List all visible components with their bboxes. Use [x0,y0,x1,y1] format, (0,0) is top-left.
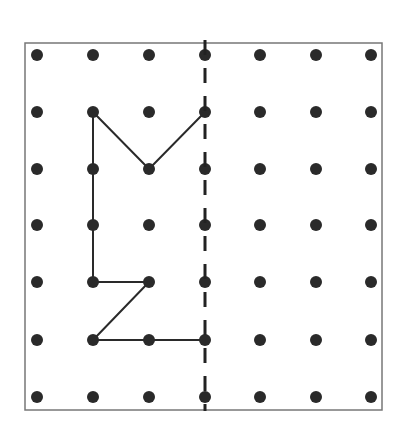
grid-dot [254,219,266,231]
grid-dot [31,163,43,175]
grid-dot [310,219,322,231]
grid-dot [365,163,377,175]
grid-dot [254,276,266,288]
shape-segment [149,112,205,169]
grid-dot [310,334,322,346]
grid-dot [87,49,99,61]
grid-dot [31,276,43,288]
grid-dot [143,219,155,231]
shape-segment [93,282,149,340]
grid-dot [254,391,266,403]
grid-dot [365,334,377,346]
grid-dot [143,391,155,403]
grid-dot [31,334,43,346]
grid-dot [31,106,43,118]
shape-segment [93,112,149,169]
grid-dot [254,334,266,346]
grid-dot [254,106,266,118]
grid-dot [310,163,322,175]
grid-dot [254,49,266,61]
grid-dot [87,391,99,403]
grid-dot [143,106,155,118]
grid-dot [143,49,155,61]
grid-dot [365,219,377,231]
grid-dot [310,49,322,61]
grid-dot [31,391,43,403]
grid-dot [199,391,211,403]
grid-dot [365,49,377,61]
grid-dot [365,391,377,403]
geoboard-diagram [0,0,399,432]
grid-dot [310,391,322,403]
grid-dot [310,106,322,118]
grid-dot [310,276,322,288]
grid-dot [365,106,377,118]
grid-dot [31,219,43,231]
grid-dot [31,49,43,61]
grid-dot [254,163,266,175]
grid-dot [365,276,377,288]
